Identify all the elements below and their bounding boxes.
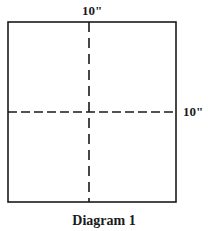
right-dimension-label: 10" [183,104,203,120]
diagram-canvas [0,0,208,231]
top-dimension-label: 10" [82,3,102,19]
diagram-caption: Diagram 1 [0,213,208,229]
